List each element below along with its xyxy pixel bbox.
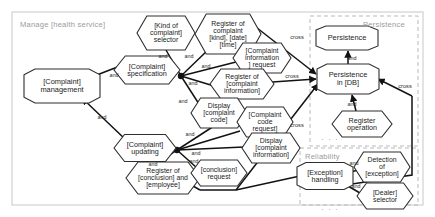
node-dealer-selector[interactable]	[357, 183, 413, 209]
node-conclusion-request[interactable]	[191, 160, 247, 186]
node-register-operation[interactable]	[332, 111, 392, 137]
diagram-canvas: [Complaint] management[Complaint] specif…	[0, 0, 435, 217]
node-persistence-in-db[interactable]	[317, 64, 379, 94]
node-register-of-conclusion[interactable]	[126, 162, 200, 194]
edge-cross-right-to-persistence-db	[378, 79, 412, 96]
node-detection-of-exception[interactable]	[354, 152, 410, 182]
edge-updating-to-management	[82, 98, 126, 140]
edge-register-operation-to-persistence-db	[352, 95, 356, 111]
edge-hub2-to-display-code	[177, 126, 214, 150]
node-layer	[24, 14, 413, 209]
node-exception-handling[interactable]	[297, 163, 353, 190]
node-complaint-specification[interactable]	[114, 56, 180, 84]
node-complaint-management[interactable]	[24, 69, 100, 103]
node-persistence[interactable]	[316, 26, 378, 50]
ellipsis-p2: · · ·	[321, 205, 338, 214]
diagram-svg	[0, 0, 435, 217]
node-display-complaint-information[interactable]	[242, 133, 300, 163]
node-register-of-complaint-information[interactable]	[210, 69, 274, 99]
ellipsis-p1: · · ·	[321, 135, 338, 144]
node-kind-of-complaint-selector[interactable]	[137, 16, 195, 50]
spec-hub-junction	[178, 73, 184, 79]
node-complaint-updating[interactable]	[114, 135, 176, 162]
